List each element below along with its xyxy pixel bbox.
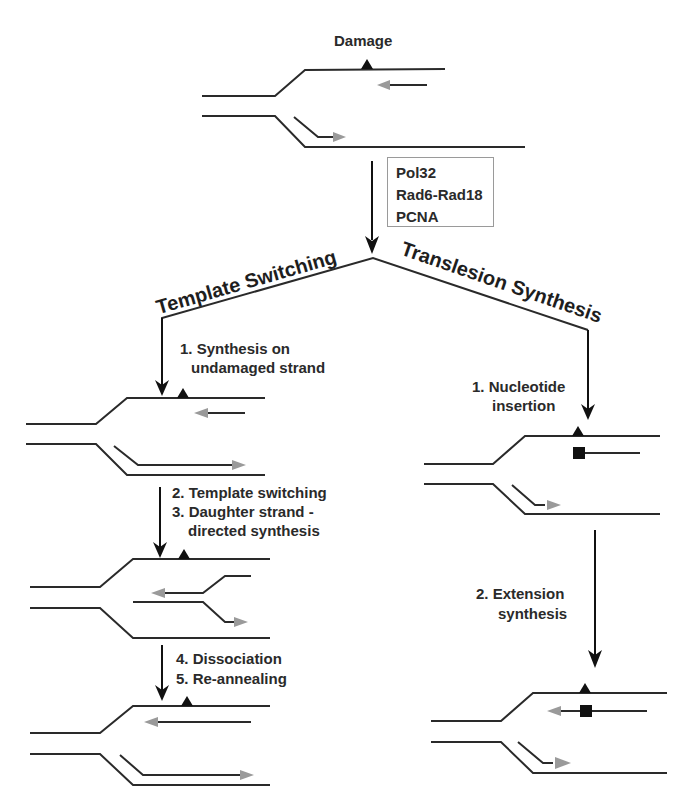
tls-fork-step2 xyxy=(431,693,667,773)
damage-triangle-icon xyxy=(572,426,584,436)
factor-pcna: PCNA xyxy=(396,206,493,228)
factor-box: Pol32 Rad6-Rad18 PCNA xyxy=(387,157,494,227)
gray-arrowhead-icon xyxy=(547,706,561,716)
gray-arrowhead-icon xyxy=(377,80,390,90)
gray-arrowhead-icon xyxy=(333,132,346,142)
tls-step1-label-line2: insertion xyxy=(492,397,555,415)
gray-arrowhead-icon xyxy=(547,500,561,510)
ts-step2-label-line1: 2. Template switching xyxy=(172,484,327,502)
gray-arrowhead-icon xyxy=(144,717,158,727)
ts-step2-label-line3: directed synthesis xyxy=(188,522,320,540)
ts-step1-label-line2: undamaged strand xyxy=(191,359,325,377)
tls-step2-label-line1: 2. Extension xyxy=(476,585,564,603)
inserted-nucleotide-square-icon xyxy=(573,447,585,459)
tls-fork-step1 xyxy=(424,436,660,514)
damage-triangle-icon xyxy=(177,388,189,398)
ts-step3-label-line2: 5. Re-annealing xyxy=(176,670,287,688)
gray-arrowhead-icon xyxy=(234,617,248,627)
damage-triangle-icon xyxy=(361,59,373,69)
gray-arrowhead-icon xyxy=(555,757,571,769)
factor-rad6-rad18: Rad6-Rad18 xyxy=(396,184,493,206)
gray-arrowhead-icon xyxy=(232,460,246,470)
dna-damage-tolerance-diagram xyxy=(0,0,695,805)
factor-pol32: Pol32 xyxy=(396,162,493,184)
damage-triangle-icon xyxy=(579,683,591,693)
inserted-nucleotide-square-icon xyxy=(580,705,592,717)
tls-step2-label-line2: synthesis xyxy=(498,605,567,623)
top-replication-fork xyxy=(202,69,525,147)
damage-triangle-icon xyxy=(181,696,193,706)
gray-arrowhead-icon xyxy=(240,770,254,780)
damage-label: Damage xyxy=(334,32,392,50)
ts-step1-label-line1: 1. Synthesis on xyxy=(180,340,290,358)
gray-arrowhead-icon xyxy=(194,408,208,418)
ts-step2-label-line2: 3. Daughter strand - xyxy=(172,503,314,521)
gray-arrowhead-icon xyxy=(151,588,165,598)
damage-triangle-icon xyxy=(178,549,190,559)
ts-fork-step1 xyxy=(26,398,265,475)
tls-step1-label-line1: 1. Nucleotide xyxy=(472,378,565,396)
ts-fork-step3 xyxy=(30,706,270,785)
ts-step3-label-line1: 4. Dissociation xyxy=(176,650,282,668)
